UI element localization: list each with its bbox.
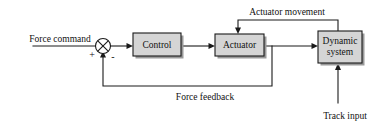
dynamic-system-block-label-line2: system (327, 47, 354, 57)
actuator-movement-label: Actuator movement (249, 7, 325, 17)
wire-actuator-movement (238, 20, 338, 31)
block-diagram-canvas: Control Actuator Dynamic system Force co… (0, 0, 387, 128)
summing-junction-plus-sign: + (89, 49, 95, 60)
dynamic-system-block-label-line1: Dynamic (323, 36, 358, 46)
summing-junction-minus-sign: - (111, 51, 114, 62)
arrowhead-actuator-movement-input (235, 28, 241, 35)
force-feedback-label: Force feedback (176, 92, 235, 102)
track-input-label: Track input (323, 111, 367, 121)
arrowhead-actuator-input (209, 43, 216, 49)
control-block-label: Control (142, 40, 171, 50)
arrowhead-control-input (127, 43, 134, 49)
force-command-label: Force command (29, 34, 91, 44)
arrowhead-dynamic-input (312, 43, 319, 49)
actuator-block-label: Actuator (223, 40, 257, 50)
block-diagram: Control Actuator Dynamic system Force co… (0, 0, 387, 128)
